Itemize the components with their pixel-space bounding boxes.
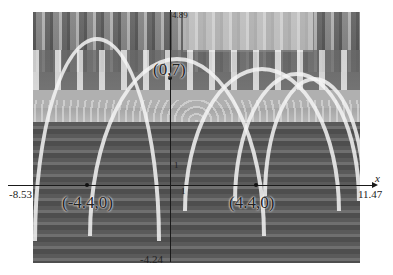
y-max-label: 4.89 bbox=[172, 10, 188, 20]
right-root-point bbox=[254, 183, 258, 187]
x-min-label: -8.53 bbox=[9, 188, 32, 200]
x-axis-label: x bbox=[375, 172, 380, 184]
x-max-label: 11.47 bbox=[358, 188, 382, 200]
x-tick-label: 1 bbox=[181, 186, 186, 196]
y-axis bbox=[170, 10, 171, 262]
sky-patch bbox=[183, 12, 313, 52]
fountain-photo bbox=[33, 12, 360, 263]
x-axis bbox=[8, 185, 376, 186]
left-root-label: (-4.4,0) bbox=[62, 193, 113, 213]
vertex-label: (0,7) bbox=[153, 60, 186, 80]
y-tick-label: 1 bbox=[174, 160, 179, 170]
left-root-point bbox=[85, 183, 89, 187]
y-min-label: -4.24 bbox=[140, 253, 163, 265]
right-root-label: (4.4,0) bbox=[229, 193, 274, 213]
